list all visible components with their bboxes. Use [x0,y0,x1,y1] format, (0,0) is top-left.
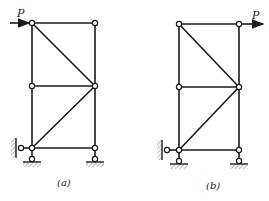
support-pin-right-icon [92,156,97,161]
joint-icon [29,145,34,150]
load-label: P [251,9,260,22]
support-pin-left-icon [29,156,34,161]
joint-icon [236,21,241,26]
ground-hatch-left-icon [23,162,41,167]
joint-icon [236,84,241,89]
member-diagonal-upper [179,24,239,87]
member-diagonal-lower [32,86,95,148]
caption-b: (b) [206,180,220,191]
load-label: P [16,7,25,20]
support-pin-left-icon [176,158,181,163]
joint-icon [236,147,241,152]
ground-hatch-right-icon [86,162,104,167]
joint-icon [176,147,181,152]
joint-icon [92,20,97,25]
truss-diagrams: P (a) P [0,0,269,201]
member-diagonal-upper [32,23,95,86]
caption-a: (a) [57,177,71,188]
member-diagonal-lower [179,87,239,150]
ground-hatch-left-icon [170,164,188,169]
joint-icon [29,20,34,25]
wall-pin-icon [164,147,169,152]
joint-icon [176,21,181,26]
joint-icon [92,83,97,88]
wall-pin-icon [18,145,23,150]
support-pin-right-icon [236,158,241,163]
truss-a: P (a) [10,7,104,188]
ground-hatch-right-icon [230,164,248,169]
joint-icon [176,84,181,89]
wall-hatch-icon [11,138,16,158]
joint-icon [29,83,34,88]
joint-icon [92,145,97,150]
wall-hatch-icon [157,140,162,160]
truss-b: P (b) [157,9,263,191]
